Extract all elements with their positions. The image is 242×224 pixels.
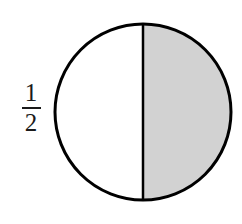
shaded-half-slice — [143, 24, 231, 200]
fraction-numerator: 1 — [14, 80, 48, 106]
fraction-label: 1 2 — [14, 80, 48, 136]
unshaded-half-slice — [55, 24, 143, 200]
fraction-denominator: 2 — [14, 110, 48, 136]
figure-root: 1 2 — [0, 0, 242, 224]
